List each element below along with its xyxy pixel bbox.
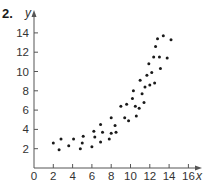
y-tick-label: 6: [23, 104, 29, 116]
data-point: [110, 116, 113, 119]
data-point: [127, 119, 130, 122]
y-tick-label: 10: [16, 66, 29, 78]
x-tick-label: 10: [124, 170, 137, 181]
data-point: [108, 138, 111, 141]
y-axis-arrow-icon: [32, 10, 37, 17]
x-tick-label: 0: [31, 170, 37, 181]
x-tick-label: 12: [143, 170, 156, 181]
y-tick-label: 14: [16, 27, 29, 39]
data-point: [99, 140, 102, 143]
x-tick-label: 14: [163, 170, 176, 181]
x-tick-label: 2: [50, 170, 56, 181]
x-tick-label: 16: [182, 170, 195, 181]
x-tick-label: 6: [89, 170, 95, 181]
data-point: [90, 145, 93, 148]
data-point: [143, 101, 146, 104]
y-axis-label: y: [24, 6, 32, 20]
data-point: [166, 56, 169, 59]
data-point: [119, 105, 122, 108]
x-tick-label: 8: [108, 170, 114, 181]
y-tick-label: 12: [16, 46, 29, 58]
data-point: [158, 56, 161, 59]
tick-labels: 02468101214162468101214xy: [16, 6, 203, 181]
data-point: [99, 123, 102, 126]
data-point: [135, 114, 138, 117]
data-point: [152, 56, 155, 59]
data-points: [52, 34, 173, 151]
scatter-chart: 02468101214162468101214xy: [0, 0, 206, 181]
data-point: [170, 38, 173, 41]
data-point: [143, 85, 146, 88]
data-point: [134, 105, 137, 108]
x-tick-label: 4: [69, 170, 76, 181]
data-point: [148, 84, 151, 87]
data-point: [92, 130, 95, 133]
data-point: [154, 45, 157, 48]
data-point: [132, 89, 135, 92]
data-point: [58, 148, 61, 151]
data-point: [52, 141, 55, 144]
data-point: [81, 141, 84, 144]
x-axis-label: x: [195, 169, 203, 181]
data-point: [125, 103, 128, 106]
data-point: [115, 131, 118, 134]
data-point: [72, 138, 75, 141]
data-point: [93, 136, 96, 139]
data-point: [145, 74, 148, 77]
data-point: [139, 79, 142, 82]
data-point: [67, 144, 70, 147]
data-point: [101, 131, 104, 134]
data-point: [147, 62, 150, 65]
data-point: [82, 135, 85, 138]
y-tick-label: 2: [23, 143, 29, 155]
data-point: [79, 147, 82, 150]
data-point: [141, 92, 144, 95]
data-point: [138, 107, 141, 110]
data-point: [123, 116, 126, 119]
data-point: [110, 132, 113, 135]
y-tick-label: 4: [23, 123, 30, 135]
data-point: [114, 124, 117, 127]
axes: [32, 10, 203, 171]
data-point: [156, 37, 159, 40]
data-point: [159, 67, 162, 70]
data-point: [162, 34, 165, 37]
data-point: [60, 138, 63, 141]
data-point: [131, 97, 134, 100]
data-point: [153, 82, 156, 85]
data-point: [150, 71, 153, 74]
y-tick-label: 8: [23, 85, 29, 97]
